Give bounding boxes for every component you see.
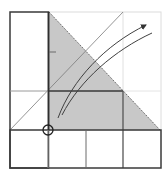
left-panel — [10, 12, 49, 168]
origami-diagram — [0, 0, 168, 179]
